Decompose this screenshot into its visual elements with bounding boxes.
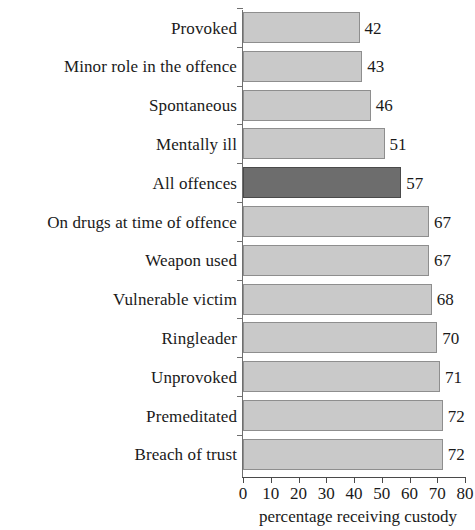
bar-row: On drugs at time of offence67 [0, 206, 475, 237]
x-axis-tick-label: 50 [373, 485, 390, 502]
category-label: Premeditated [146, 407, 237, 424]
bar-value-label: 70 [442, 329, 459, 346]
bar-row: All offences57 [0, 167, 475, 198]
y-axis-tick [237, 202, 243, 203]
category-label: Spontaneous [149, 97, 237, 114]
category-label: Unprovoked [151, 368, 237, 385]
bar [243, 439, 443, 470]
bar-value-label: 72 [448, 446, 465, 463]
bar-row: Breach of trust72 [0, 439, 475, 470]
bar-row: Vulnerable victim68 [0, 284, 475, 315]
y-axis-tick [237, 163, 243, 164]
y-axis-tick [237, 86, 243, 87]
bar [243, 128, 385, 159]
bar-row: Mentally ill51 [0, 128, 475, 159]
bar-row: Premeditated72 [0, 400, 475, 431]
bar-value-label: 57 [406, 174, 423, 191]
bar [243, 12, 360, 43]
category-label: All offences [153, 174, 237, 191]
category-label: On drugs at time of offence [47, 213, 237, 230]
x-axis-tick [299, 477, 300, 483]
x-axis-tick-label: 0 [239, 485, 248, 502]
x-axis-tick [382, 477, 383, 483]
x-axis-tick-label: 30 [318, 485, 335, 502]
x-axis-tick-label: 20 [290, 485, 307, 502]
y-axis-tick [237, 124, 243, 125]
bar-value-label: 67 [434, 252, 451, 269]
bar-row: Ringleader70 [0, 322, 475, 353]
bar [243, 245, 429, 276]
y-axis-tick [237, 318, 243, 319]
y-axis-tick [237, 357, 243, 358]
category-label: Mentally ill [156, 135, 237, 152]
x-axis-tick [465, 477, 466, 483]
bar-value-label: 42 [365, 19, 382, 36]
bar-value-label: 46 [376, 97, 393, 114]
bar-row: Weapon used67 [0, 245, 475, 276]
y-axis-tick [237, 8, 243, 9]
bar-row: Spontaneous46 [0, 90, 475, 121]
horizontal-bar-chart: Provoked42Minor role in the offence43Spo… [0, 0, 475, 530]
bar-value-label: 68 [437, 291, 454, 308]
x-axis-tick [271, 477, 272, 483]
x-axis-tick-label: 80 [457, 485, 474, 502]
bar-value-label: 51 [390, 135, 407, 152]
plot-area: Provoked42Minor role in the offence43Spo… [0, 0, 475, 530]
x-axis-tick-label: 60 [401, 485, 418, 502]
x-axis-tick-label: 70 [429, 485, 446, 502]
bar [243, 284, 432, 315]
category-label: Ringleader [161, 329, 237, 346]
x-axis-tick [354, 477, 355, 483]
x-axis-caption: percentage receiving custody [243, 508, 473, 525]
category-label: Vulnerable victim [113, 291, 237, 308]
x-axis-tick-label: 40 [346, 485, 363, 502]
x-axis-tick [410, 477, 411, 483]
bar [243, 51, 362, 82]
bar [243, 400, 443, 431]
x-axis-tick [326, 477, 327, 483]
bar [243, 206, 429, 237]
x-axis-tick [437, 477, 438, 483]
x-axis-tick-label: 10 [262, 485, 279, 502]
bar-row: Unprovoked71 [0, 361, 475, 392]
y-axis-line [242, 10, 243, 477]
x-axis-tick [243, 477, 244, 483]
bar-highlighted [243, 167, 401, 198]
bar-value-label: 67 [434, 213, 451, 230]
category-label: Minor role in the offence [64, 58, 237, 75]
bar [243, 361, 440, 392]
category-label: Breach of trust [134, 446, 237, 463]
bar-value-label: 72 [448, 407, 465, 424]
bar [243, 322, 437, 353]
bar-row: Minor role in the offence43 [0, 51, 475, 82]
y-axis-tick [237, 47, 243, 48]
y-axis-tick [237, 435, 243, 436]
y-axis-tick [237, 396, 243, 397]
y-axis-tick [237, 241, 243, 242]
bar [243, 90, 371, 121]
bar-value-label: 43 [367, 58, 384, 75]
y-axis-tick [237, 280, 243, 281]
bar-row: Provoked42 [0, 12, 475, 43]
category-label: Provoked [171, 19, 237, 36]
bar-value-label: 71 [445, 368, 462, 385]
category-label: Weapon used [145, 252, 237, 269]
